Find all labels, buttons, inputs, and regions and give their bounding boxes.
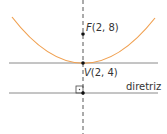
focus-label: F(2, 8) — [86, 22, 119, 33]
right-angle-dot — [79, 89, 80, 90]
directrix-point — [81, 91, 85, 95]
parabola-diagram: F(2, 8) V(2, 4) diretriz — [0, 0, 167, 134]
vertex-point — [81, 61, 85, 65]
focus-point — [81, 32, 85, 36]
directrix-label: diretriz — [126, 81, 161, 92]
parabola-curve — [12, 17, 155, 63]
vertex-label: V(2, 4) — [84, 67, 118, 78]
